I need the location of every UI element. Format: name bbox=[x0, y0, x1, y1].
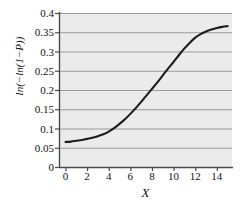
x-axis-tick-labels: 02468101214 bbox=[59, 170, 232, 184]
figure-container: ln(−ln(1−P)) 00.050.10.150.20.250.30.350… bbox=[0, 0, 241, 214]
x-axis-title: X bbox=[59, 186, 232, 200]
x-tick-label: 14 bbox=[204, 170, 230, 182]
y-axis-ticks bbox=[55, 14, 59, 168]
